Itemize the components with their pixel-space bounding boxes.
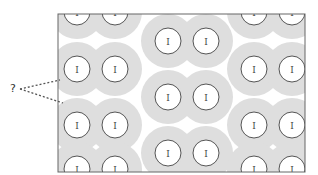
labeled-circle: I [241, 56, 267, 82]
labeled-circle: I [64, 56, 90, 82]
circle-label: I [204, 37, 208, 47]
circle-label: I [166, 93, 170, 103]
labeled-circle: I [241, 112, 267, 138]
circle-label: I [252, 8, 256, 18]
circle-outline [241, 0, 267, 25]
circle-label: I [252, 65, 256, 75]
question-mark-label: ? [10, 82, 16, 95]
circle-label: I [113, 165, 117, 175]
circle-label: I [75, 165, 79, 175]
labeled-circle: I [155, 140, 181, 166]
circle-label: I [290, 65, 294, 75]
circle-grid-diagram: IIIIIIIIIIIIIIIIIIIIII ? [0, 0, 318, 175]
circle-label: I [252, 121, 256, 131]
circle-label: I [290, 121, 294, 131]
circle-label: I [290, 8, 294, 18]
labeled-circle: I [64, 112, 90, 138]
circle-label: I [113, 65, 117, 75]
circle-label: I [75, 121, 79, 131]
circle-label: I [290, 165, 294, 175]
circle-outline [102, 0, 128, 25]
circle-label: I [113, 121, 117, 131]
labeled-circle: I [279, 0, 305, 25]
labeled-circle: I [193, 140, 219, 166]
labeled-circle: I [241, 0, 267, 25]
circle-label: I [75, 65, 79, 75]
circle-outline [64, 0, 90, 25]
circle-label: I [252, 165, 256, 175]
labeled-circle: I [193, 28, 219, 54]
labeled-circle: I [102, 112, 128, 138]
circle-label: I [166, 37, 170, 47]
labeled-circle: I [64, 0, 90, 25]
pointer-line-lower [20, 89, 63, 103]
labeled-circle: I [155, 28, 181, 54]
labeled-circle: I [155, 84, 181, 110]
labeled-circle: I [102, 0, 128, 25]
diagram-canvas: IIIIIIIIIIIIIIIIIIIIII [0, 0, 318, 175]
circle-label: I [75, 8, 79, 18]
halo-layer [50, 0, 318, 175]
labeled-circle: I [102, 56, 128, 82]
circle-label: I [204, 93, 208, 103]
circle-label: I [204, 149, 208, 159]
circle-label: I [166, 149, 170, 159]
circle-outline [279, 0, 305, 25]
circle-label: I [113, 8, 117, 18]
pointer-lines [20, 80, 63, 103]
pointer-line-upper [20, 80, 60, 89]
labeled-circle: I [193, 84, 219, 110]
labeled-circle: I [279, 56, 305, 82]
labeled-circle: I [279, 112, 305, 138]
